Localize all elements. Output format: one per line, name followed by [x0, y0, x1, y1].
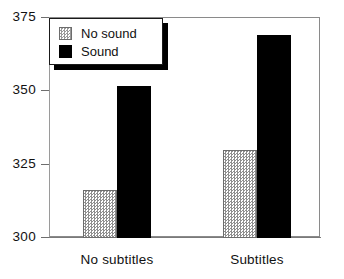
y-tick-350: [41, 90, 49, 91]
y-tick-375: [41, 17, 49, 18]
y-tick-label-325: 325: [13, 156, 36, 171]
x-tick-label-no-subtitles: No subtitles: [67, 252, 167, 267]
bar-no-subtitles-no-sound: [83, 190, 117, 238]
y-tick-label-375: 375: [13, 9, 36, 24]
y-tick-300: [41, 237, 49, 238]
legend: No sound Sound: [49, 18, 163, 65]
legend-label-sound: Sound: [81, 45, 119, 58]
bar-subtitles-no-sound: [223, 150, 257, 238]
y-tick-label-350: 350: [13, 82, 36, 97]
gray-stipple-swatch-icon: [59, 27, 72, 40]
legend-item-no-sound[interactable]: No sound: [59, 24, 162, 42]
y-tick-label-300: 300: [13, 229, 36, 244]
bar-subtitles-sound: [257, 35, 291, 238]
legend-item-sound[interactable]: Sound: [59, 42, 162, 60]
y-tick-325: [41, 164, 49, 165]
legend-label-no-sound: No sound: [81, 27, 137, 40]
black-swatch-icon: [59, 45, 72, 58]
bar-no-subtitles-sound: [117, 86, 151, 238]
bar-chart: 375 350 325 300 No subtitles Subtitles N…: [0, 0, 344, 279]
x-tick-label-subtitles: Subtitles: [207, 252, 307, 267]
